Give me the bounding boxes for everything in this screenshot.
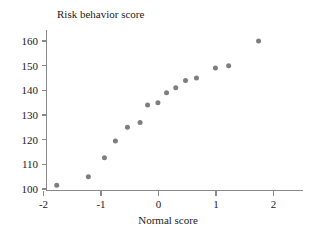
y-tick-label: 120 <box>22 134 39 146</box>
y-tick-label: 110 <box>22 158 39 170</box>
x-tick-label: -1 <box>96 198 105 210</box>
data-point <box>125 125 130 130</box>
x-tick-label: 0 <box>156 198 162 210</box>
data-point <box>86 174 91 179</box>
data-point <box>213 66 218 71</box>
data-point <box>145 103 150 108</box>
x-tick-label: -2 <box>39 198 48 210</box>
y-tick-label: 140 <box>22 84 39 96</box>
data-point <box>194 75 199 80</box>
data-points <box>54 38 261 187</box>
data-point <box>113 138 118 143</box>
x-tick-label: 2 <box>271 198 277 210</box>
data-point <box>226 63 231 68</box>
x-tick-label: 1 <box>213 198 219 210</box>
y-tick-label: 160 <box>22 35 39 47</box>
data-point <box>164 90 169 95</box>
data-point <box>54 183 59 188</box>
y-axis-title: Risk behavior score <box>57 8 144 20</box>
data-point <box>138 120 143 125</box>
x-axis-ticks <box>44 191 274 197</box>
y-tick-label: 130 <box>22 109 39 121</box>
data-point <box>155 100 160 105</box>
y-tick-labels: 160 150 140 130 120 110 100 <box>22 35 39 195</box>
y-tick-label: 150 <box>22 60 39 72</box>
axis-spines <box>47 30 304 191</box>
data-point <box>173 85 178 90</box>
x-axis-title: Normal score <box>138 214 198 226</box>
scatter-plot: 160 150 140 130 120 110 100 -2 -1 0 1 2 … <box>0 0 318 228</box>
data-point <box>102 155 107 160</box>
data-point <box>183 78 188 83</box>
data-point <box>256 38 261 43</box>
chart-figure: 160 150 140 130 120 110 100 -2 -1 0 1 2 … <box>0 0 318 228</box>
x-tick-labels: -2 -1 0 1 2 <box>39 198 276 210</box>
y-tick-label: 100 <box>22 183 39 195</box>
